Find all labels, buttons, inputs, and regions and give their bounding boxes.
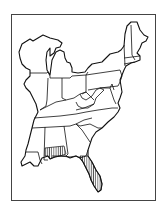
state-borders	[26, 25, 140, 164]
hatched-regions	[45, 146, 102, 192]
eastern-us-map	[0, 0, 164, 207]
hatched-region-florida	[80, 156, 102, 192]
eastern-us-outline	[19, 22, 148, 192]
